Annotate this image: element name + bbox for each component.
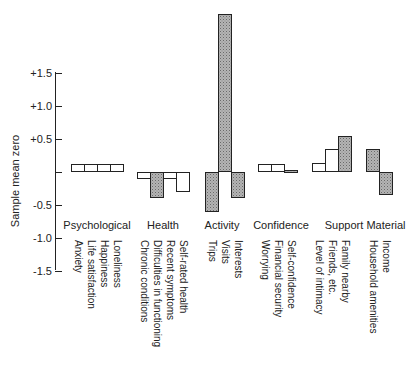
bar (163, 172, 177, 179)
bar (284, 170, 298, 173)
group-label-activity: Activity (205, 219, 240, 231)
group-label-health: Health (147, 219, 179, 231)
group-label-material: Material (366, 219, 405, 231)
y-tick (55, 271, 62, 272)
item-label: Trips (207, 240, 217, 262)
item-label: Chronic conditions (139, 240, 149, 322)
group-label-confidence: Confidence (253, 219, 309, 231)
bar (84, 164, 98, 172)
item-label: Happiness (99, 240, 109, 287)
y-axis-line (55, 72, 56, 270)
item-label: Level of intimacy (314, 240, 324, 314)
item-label: Worrying (260, 240, 270, 280)
item-label: Difficulties in functioning (152, 240, 162, 347)
bar (71, 164, 85, 172)
group-label-support: Support (325, 219, 364, 231)
y-tick (55, 238, 62, 239)
item-label: Loneliness (112, 240, 122, 288)
item-label: Family nearby (340, 240, 350, 303)
bar (366, 149, 380, 172)
y-tick (55, 205, 62, 206)
y-tick-label: +1.5 (12, 67, 52, 79)
item-label: Household amenities (368, 240, 378, 333)
bar (312, 163, 326, 172)
bar (258, 164, 272, 172)
bar (137, 172, 151, 179)
y-tick (55, 172, 62, 173)
bar (97, 164, 111, 172)
item-label: Anxiety (73, 240, 83, 273)
y-tick-label: -1.0 (12, 232, 52, 244)
bar (205, 172, 219, 212)
bar (271, 164, 285, 172)
y-tick-label: -0.5 (12, 199, 52, 211)
y-tick (55, 139, 62, 140)
bar (176, 172, 190, 192)
bar-chart: Sample mean zero +1.5+1.0+0.5-0.5-1.0-1.… (0, 0, 408, 373)
bar (231, 172, 245, 198)
item-label: Recent symptoms (165, 240, 175, 320)
bar (379, 172, 393, 195)
item-label: Financial security (273, 240, 283, 317)
y-tick-label: -1.5 (12, 265, 52, 277)
item-label: Visits (220, 240, 230, 264)
y-tick (55, 106, 62, 107)
item-label: Income (381, 240, 391, 273)
item-label: Self-confidence (286, 240, 296, 309)
item-label: Self-rated health (178, 240, 188, 313)
bar (150, 172, 164, 198)
y-tick (55, 73, 62, 74)
item-label: Life satisfaction (86, 240, 96, 309)
bar (338, 136, 352, 172)
y-tick-label: +0.5 (12, 133, 52, 145)
item-label: Friends, etc. (327, 240, 337, 295)
bar (218, 14, 232, 172)
item-label: Interests (233, 240, 243, 278)
bar (110, 164, 124, 172)
bar (325, 149, 339, 172)
y-tick-label: +1.0 (12, 100, 52, 112)
group-label-psychological: Psychological (63, 219, 130, 231)
y-axis-label: Sample mean zero (9, 135, 21, 227)
